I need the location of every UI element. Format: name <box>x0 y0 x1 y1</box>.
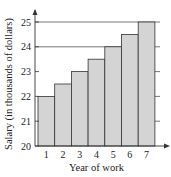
y-tick-label: 20 <box>21 141 31 152</box>
bar-chart: 1234567202122232425Year of workSalary (i… <box>0 0 171 177</box>
y-axis-label: Salary (in thousands of dollars) <box>3 18 15 150</box>
bar-year-4 <box>88 59 105 146</box>
x-tick-label: 5 <box>111 149 116 160</box>
y-tick-label: 22 <box>21 91 31 102</box>
y-axis-arrow-icon <box>33 9 38 15</box>
x-tick-label: 1 <box>44 149 49 160</box>
bar-year-2 <box>55 84 72 146</box>
bar-year-3 <box>71 72 88 146</box>
bar-year-6 <box>122 34 139 146</box>
y-tick-label: 23 <box>21 66 31 77</box>
x-axis-arrow-icon <box>164 144 170 149</box>
y-tick-label: 25 <box>21 17 31 28</box>
bar-year-7 <box>138 22 155 146</box>
x-tick-label: 7 <box>144 149 149 160</box>
bar-year-5 <box>105 47 122 146</box>
x-tick-label: 6 <box>127 149 132 160</box>
x-axis-label: Year of work <box>69 162 125 173</box>
y-tick-label: 24 <box>21 41 31 52</box>
x-tick-label: 3 <box>77 149 82 160</box>
x-tick-label: 2 <box>61 149 66 160</box>
x-tick-label: 4 <box>94 149 99 160</box>
y-tick-label: 21 <box>21 116 31 127</box>
bar-year-1 <box>38 96 55 146</box>
